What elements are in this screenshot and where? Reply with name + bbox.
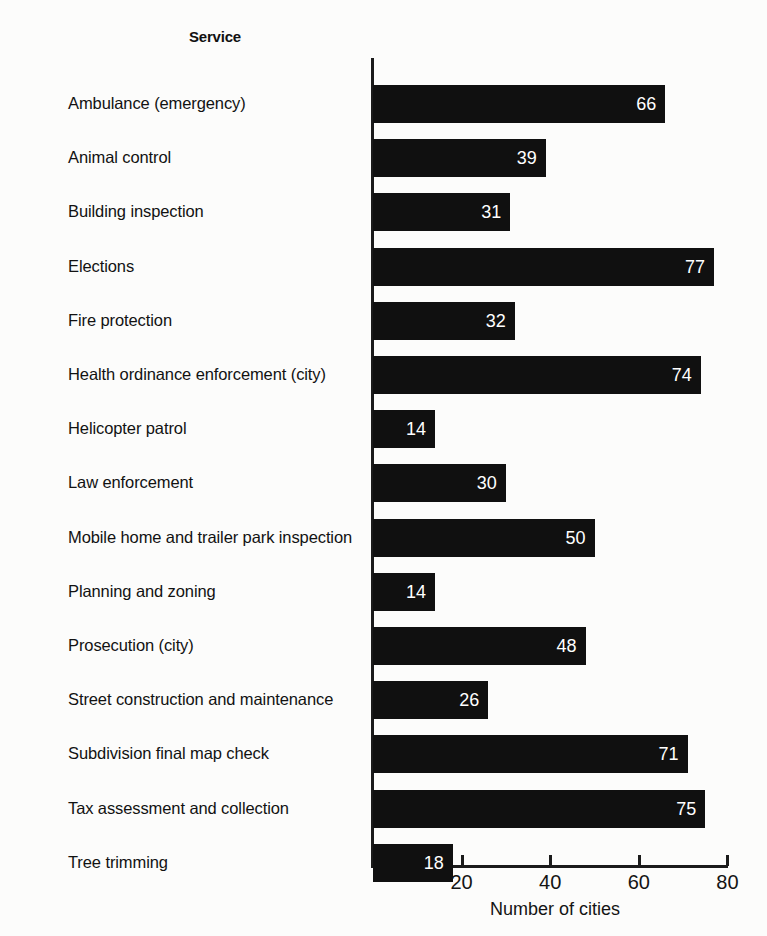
bar: 71 xyxy=(373,735,688,773)
category-label: Law enforcement xyxy=(68,473,368,492)
bar-value-label: 31 xyxy=(481,203,501,221)
bar-value-label: 26 xyxy=(459,691,479,709)
bar-value-label: 18 xyxy=(424,854,444,872)
bar: 75 xyxy=(373,790,705,828)
bar-value-label: 74 xyxy=(672,366,692,384)
bar: 30 xyxy=(373,464,506,502)
bar: 26 xyxy=(373,681,488,719)
bar: 77 xyxy=(373,248,714,286)
x-axis-tick xyxy=(726,855,729,866)
category-label: Subdivision final map check xyxy=(68,744,368,763)
bar: 18 xyxy=(373,844,453,882)
bar: 48 xyxy=(373,627,586,665)
bar: 14 xyxy=(373,573,435,611)
category-label: Prosecution (city) xyxy=(68,636,368,655)
bar-value-label: 30 xyxy=(477,474,497,492)
category-label: Building inspection xyxy=(68,202,368,221)
bar-value-label: 39 xyxy=(517,149,537,167)
category-label: Helicopter patrol xyxy=(68,419,368,438)
bar-value-label: 48 xyxy=(557,637,577,655)
category-label: Street construction and maintenance xyxy=(68,690,368,709)
category-label: Fire protection xyxy=(68,311,368,330)
chart-page: Service 20406080 Ambulance (emergency)66… xyxy=(0,0,767,936)
category-label: Ambulance (emergency) xyxy=(68,94,368,113)
category-label: Animal control xyxy=(68,148,368,167)
bar-value-label: 77 xyxy=(685,258,705,276)
x-axis-title: Number of cities xyxy=(455,899,655,920)
category-label: Health ordinance enforcement (city) xyxy=(68,365,368,384)
bar-value-label: 50 xyxy=(565,529,585,547)
category-label: Tax assessment and collection xyxy=(68,799,368,818)
bar: 50 xyxy=(373,519,595,557)
bar-value-label: 14 xyxy=(406,420,426,438)
category-label: Tree trimming xyxy=(68,853,368,872)
bar: 74 xyxy=(373,356,701,394)
category-label: Mobile home and trailer park inspection xyxy=(68,528,368,547)
category-label: Planning and zoning xyxy=(68,582,368,601)
x-axis-tick xyxy=(638,855,641,866)
bar-value-label: 71 xyxy=(658,745,678,763)
bar: 14 xyxy=(373,410,435,448)
bar-value-label: 32 xyxy=(486,312,506,330)
bar-value-label: 75 xyxy=(676,800,696,818)
x-axis-tick xyxy=(549,855,552,866)
bar: 31 xyxy=(373,193,510,231)
x-axis-tick-label: 80 xyxy=(697,871,757,894)
x-axis-tick xyxy=(461,855,464,866)
bar-chart-plot-area: 20406080 Ambulance (emergency)66Animal c… xyxy=(0,0,767,936)
bar: 32 xyxy=(373,302,515,340)
category-label: Elections xyxy=(68,257,368,276)
x-axis-tick-label: 40 xyxy=(520,871,580,894)
bar: 66 xyxy=(373,85,665,123)
bar-value-label: 14 xyxy=(406,583,426,601)
x-axis-tick-label: 60 xyxy=(609,871,669,894)
bar: 39 xyxy=(373,139,546,177)
bar-value-label: 66 xyxy=(636,95,656,113)
